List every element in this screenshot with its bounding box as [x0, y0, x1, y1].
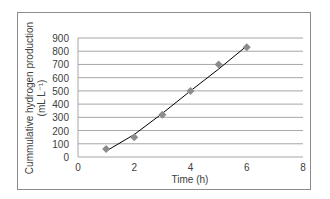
data-point-marker [102, 145, 110, 153]
x-tick-label: 6 [244, 162, 250, 173]
data-point-marker [243, 43, 251, 51]
y-axis-title-line2: (mL L⁻¹) [36, 80, 47, 117]
y-tick-label: 0 [63, 152, 69, 163]
y-tick-label: 800 [52, 46, 69, 57]
chart: 010020030040050060070080090002468Time (h… [0, 0, 330, 199]
y-tick-label: 700 [52, 59, 69, 70]
x-tick-label: 0 [75, 162, 81, 173]
y-tick-label: 500 [52, 86, 69, 97]
y-tick-label: 900 [52, 33, 69, 44]
x-tick-label: 8 [300, 162, 306, 173]
y-tick-label: 400 [52, 99, 69, 110]
y-axis-title-line1: Cummulative hydrogen production [24, 22, 35, 174]
fit-line [106, 46, 247, 151]
y-tick-label: 100 [52, 139, 69, 150]
y-tick-label: 600 [52, 73, 69, 84]
data-point-marker [130, 133, 138, 141]
x-tick-label: 4 [188, 162, 194, 173]
x-tick-label: 2 [131, 162, 137, 173]
x-axis-title: Time (h) [172, 174, 209, 185]
y-tick-label: 300 [52, 112, 69, 123]
y-tick-label: 200 [52, 126, 69, 137]
